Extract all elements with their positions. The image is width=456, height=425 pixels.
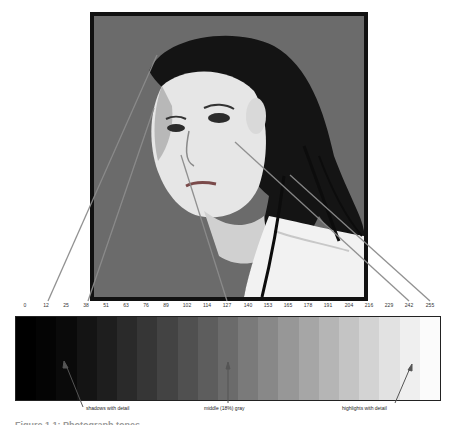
tone-step-165 xyxy=(278,317,298,400)
tone-step-63 xyxy=(117,317,137,400)
tick-label: 242 xyxy=(405,302,413,308)
tick-label: 178 xyxy=(304,302,312,308)
tick-label: 0 xyxy=(24,302,27,308)
highlights-annotation: highlights with detail xyxy=(342,405,387,411)
tone-step-0 xyxy=(16,317,36,400)
tone-step-127 xyxy=(218,317,238,400)
tone-step-102 xyxy=(178,317,198,400)
tick-label: 165 xyxy=(284,302,292,308)
tone-step-255 xyxy=(420,317,440,400)
tone-step-38 xyxy=(77,317,97,400)
tone-step-191 xyxy=(319,317,339,400)
tick-label: 63 xyxy=(123,302,129,308)
tone-step-140 xyxy=(238,317,258,400)
tone-step-76 xyxy=(137,317,157,400)
tick-label: 153 xyxy=(264,302,272,308)
tone-step-12 xyxy=(36,317,56,400)
tonal-step-wedge xyxy=(15,316,441,401)
tick-label: 51 xyxy=(103,302,109,308)
tone-step-51 xyxy=(97,317,117,400)
tone-step-204 xyxy=(339,317,359,400)
figure-caption: Figure 1.1: Photograph tones xyxy=(15,418,140,425)
tick-label: 229 xyxy=(385,302,393,308)
midtone-annotation: middle (18%) gray xyxy=(204,405,245,411)
portrait-illustration xyxy=(94,16,364,297)
tone-step-25 xyxy=(56,317,76,400)
tick-label: 127 xyxy=(223,302,231,308)
tick-label: 12 xyxy=(43,302,49,308)
tone-step-216 xyxy=(359,317,379,400)
tone-value-labels: 0 12 25 38 51 63 76 89 102 114 127 140 1… xyxy=(0,302,456,312)
tick-label: 89 xyxy=(163,302,169,308)
tone-step-178 xyxy=(299,317,319,400)
tick-label: 25 xyxy=(63,302,69,308)
tick-label: 38 xyxy=(83,302,89,308)
tick-label: 114 xyxy=(203,302,211,308)
tick-label: 76 xyxy=(143,302,149,308)
tone-step-114 xyxy=(198,317,218,400)
tick-label: 191 xyxy=(324,302,332,308)
tick-label: 255 xyxy=(426,302,434,308)
tick-label: 204 xyxy=(345,302,353,308)
tone-step-229 xyxy=(379,317,399,400)
portrait-photo xyxy=(90,12,368,301)
tone-step-153 xyxy=(258,317,278,400)
shadows-annotation: shadows with detail xyxy=(86,405,129,411)
tick-label: 216 xyxy=(365,302,373,308)
tick-label: 102 xyxy=(183,302,191,308)
tone-step-242 xyxy=(400,317,420,400)
tone-step-89 xyxy=(157,317,177,400)
tick-label: 140 xyxy=(244,302,252,308)
